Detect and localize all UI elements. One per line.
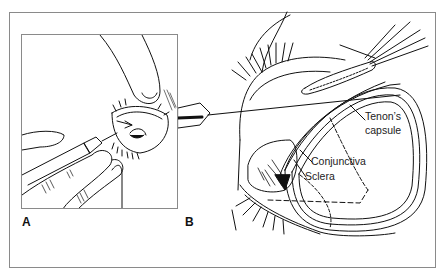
label-sclera: Sclera [305, 170, 335, 183]
syringe-injection-illustration [22, 35, 178, 209]
panel-a-frame [21, 34, 178, 209]
panel-label-a: A [22, 216, 31, 228]
label-conjunctiva: Conjunctiva [311, 155, 366, 168]
label-tenons-capsule-line2: capsule [365, 124, 401, 137]
label-tenons-capsule-line1: Tenon’s [365, 110, 401, 123]
panel-label-b: B [185, 216, 194, 228]
